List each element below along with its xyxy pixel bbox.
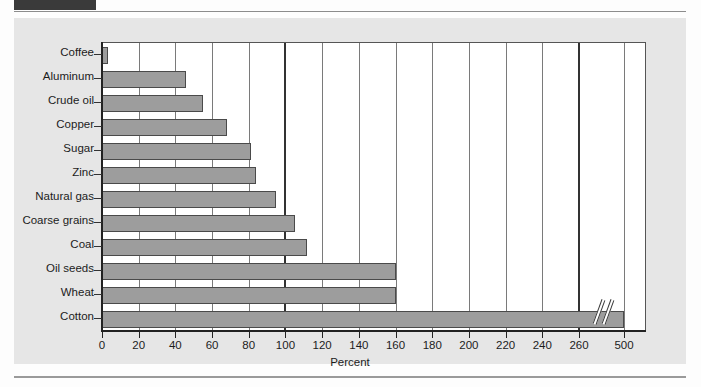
y-tick-zinc — [94, 174, 102, 175]
y-axis-line — [101, 42, 103, 332]
bar-wheat — [102, 287, 396, 304]
y-axis-label-oil-seeds: Oil seeds — [10, 262, 94, 274]
bar-coarse-grains — [102, 215, 295, 232]
bar-zinc — [102, 167, 256, 184]
x-axis-tick-label-140: 140 — [349, 339, 368, 351]
x-axis-tick-label-200: 200 — [459, 339, 478, 351]
y-axis-label-sugar: Sugar — [10, 142, 94, 154]
gridline-240 — [542, 43, 543, 331]
y-axis-label-coffee: Coffee — [10, 46, 94, 58]
x-axis-tick-label-260: 260 — [569, 339, 588, 351]
gridline-160 — [396, 43, 397, 331]
bar-cotton — [102, 311, 624, 328]
y-tick-coal — [94, 246, 102, 247]
x-tick-240 — [542, 332, 543, 338]
x-axis-tick-label-20: 20 — [132, 339, 145, 351]
bar-copper — [102, 119, 227, 136]
x-tick-200 — [469, 332, 470, 338]
y-tick-oil-seeds — [94, 270, 102, 271]
bar-coal — [102, 239, 307, 256]
gridline-500 — [624, 43, 625, 331]
x-tick-100 — [285, 332, 286, 338]
y-axis-labels-group: CoffeeAluminumCrude oilCopperSugarZincNa… — [14, 42, 94, 330]
y-tick-natural-gas — [94, 198, 102, 199]
y-axis-label-copper: Copper — [10, 118, 94, 130]
gridline-180 — [432, 43, 433, 331]
x-tick-60 — [212, 332, 213, 338]
x-axis-tick-label-60: 60 — [206, 339, 219, 351]
x-tick-220 — [506, 332, 507, 338]
y-axis-label-natural-gas: Natural gas — [10, 190, 94, 202]
bottom-divider-rule — [14, 376, 686, 378]
figure-page: CoffeeAluminumCrude oilCopperSugarZincNa… — [0, 0, 701, 387]
y-axis-label-coarse-grains: Coarse grains — [10, 214, 94, 226]
x-axis-tick-label-500: 500 — [614, 339, 633, 351]
bar-natural-gas — [102, 191, 276, 208]
x-axis-tick-label-120: 120 — [313, 339, 332, 351]
x-tick-40 — [175, 332, 176, 338]
x-axis-tick-label-160: 160 — [386, 339, 405, 351]
y-tick-copper — [94, 126, 102, 127]
plot-area — [102, 42, 646, 331]
x-tick-180 — [432, 332, 433, 338]
figure-number-tab — [14, 0, 96, 10]
y-axis-label-wheat: Wheat — [10, 286, 94, 298]
x-axis-tick-label-220: 220 — [496, 339, 515, 351]
figure-title — [100, 0, 660, 3]
x-axis-title: Percent — [14, 356, 686, 368]
y-tick-coffee — [94, 54, 102, 55]
gridline-220 — [506, 43, 507, 331]
x-tick-120 — [322, 332, 323, 338]
bar-aluminum — [102, 71, 186, 88]
x-tick-260 — [579, 332, 580, 338]
x-axis-tick-label-40: 40 — [169, 339, 182, 351]
x-axis-tick-label-0: 0 — [99, 339, 105, 351]
x-tick-160 — [396, 332, 397, 338]
chart-panel: CoffeeAluminumCrude oilCopperSugarZincNa… — [14, 18, 686, 364]
y-axis-label-aluminum: Aluminum — [10, 70, 94, 82]
y-tick-aluminum — [94, 78, 102, 79]
x-axis-tick-label-80: 80 — [242, 339, 255, 351]
y-axis-label-coal: Coal — [10, 238, 94, 250]
y-axis-label-zinc: Zinc — [10, 166, 94, 178]
y-tick-wheat — [94, 294, 102, 295]
x-axis-tick-label-180: 180 — [423, 339, 442, 351]
gridline-260 — [578, 43, 580, 331]
y-tick-coarse-grains — [94, 222, 102, 223]
x-tick-0 — [102, 332, 103, 338]
y-tick-crude-oil — [94, 102, 102, 103]
bar-sugar — [102, 143, 251, 160]
x-tick-80 — [249, 332, 250, 338]
x-axis-line — [101, 330, 646, 332]
y-axis-label-crude-oil: Crude oil — [10, 94, 94, 106]
bar-crude-oil — [102, 95, 203, 112]
y-tick-cotton — [94, 318, 102, 319]
x-axis-tick-label-240: 240 — [533, 339, 552, 351]
x-tick-20 — [139, 332, 140, 338]
x-axis-tick-label-100: 100 — [276, 339, 295, 351]
y-axis-label-cotton: Cotton — [10, 310, 94, 322]
x-tick-140 — [359, 332, 360, 338]
x-tick-500 — [624, 332, 625, 338]
bar-oil-seeds — [102, 263, 396, 280]
top-divider-rule — [14, 11, 686, 12]
gridline-200 — [469, 43, 470, 331]
y-tick-sugar — [94, 150, 102, 151]
